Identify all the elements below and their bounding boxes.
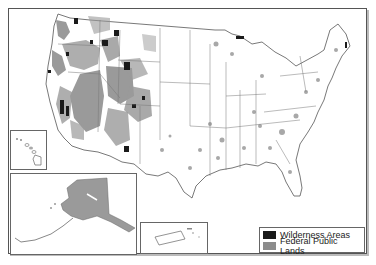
alaska-map: [11, 174, 136, 254]
hawaii-map: [11, 131, 46, 169]
legend-item-federal: Federal Public Lands: [263, 240, 361, 251]
hawaii-inset: [10, 130, 47, 170]
federal-swatch: [263, 242, 276, 250]
puerto-rico-inset: [140, 222, 208, 254]
legend-label: Federal Public Lands: [280, 236, 361, 256]
puerto-rico-map: [141, 223, 207, 253]
alaska-inset: [10, 173, 137, 255]
map-legend: Wilderness Areas Federal Public Lands: [259, 227, 365, 253]
wilderness-swatch: [263, 231, 276, 239]
